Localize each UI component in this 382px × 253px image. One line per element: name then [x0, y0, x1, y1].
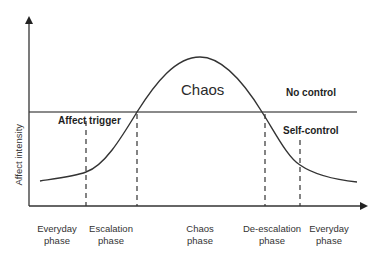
phase-label-line2: phase — [294, 235, 364, 247]
phase-label-line1: Escalation — [76, 223, 146, 235]
no-control-label: No control — [286, 88, 336, 98]
phase-label-line1: Chaos — [165, 223, 235, 235]
phase-boundaries — [86, 114, 300, 206]
phase-label-chaos: Chaos phase — [165, 223, 235, 247]
chaos-region-label: Chaos — [181, 82, 224, 97]
self-control-label: Self-control — [283, 126, 339, 136]
phase-label-line1: Everyday — [294, 223, 364, 235]
phase-label-line2: phase — [165, 235, 235, 247]
y-axis-label: Affect intensity — [14, 115, 24, 195]
affect-trigger-label: Affect trigger — [58, 116, 121, 126]
phase-label-escalation: Escalation phase — [76, 223, 146, 247]
phase-label-line2: phase — [76, 235, 146, 247]
phase-label-everyday-end: Everyday phase — [294, 223, 364, 247]
affect-intensity-diagram: Chaos No control Affect trigger Self-con… — [0, 0, 382, 253]
